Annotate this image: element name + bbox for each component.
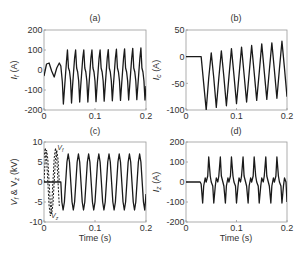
y-tick-label: -200	[24, 105, 42, 115]
y-tick-label: 100	[27, 45, 42, 55]
subplot-c: (c) Time (s) 1050-5-1000.10.2Vf & Vz (kV…	[9, 126, 152, 243]
subplot-title-c: (c)	[90, 126, 101, 136]
subplot-d: (d) Time (s) 2001000-100-20000.10.2Iz (A…	[151, 126, 293, 243]
x-tick-label: 0	[183, 111, 188, 121]
y-axis-label: Vf & Vz (kV)	[9, 158, 20, 205]
y-tick-label: -100	[166, 197, 184, 207]
y-tick-label: 50	[174, 25, 184, 35]
series-line	[186, 41, 287, 110]
y-tick-label: 0	[179, 177, 184, 187]
x-axis-label-d: Time (s)	[220, 233, 253, 243]
y-tick-label: 0	[179, 52, 184, 62]
axes-box	[186, 142, 287, 222]
y-tick-label: 5	[37, 157, 42, 167]
annotation-label: Vz	[51, 212, 59, 221]
y-axis-label: Ic (A)	[151, 60, 162, 80]
y-tick-label: 0	[37, 177, 42, 187]
y-tick-label: 200	[27, 25, 42, 35]
figure: (a) 2001000-100-20000.10.2If (A) (b) 500…	[0, 0, 308, 262]
x-axis-label-c: Time (s)	[79, 233, 112, 243]
y-tick-label: -50	[171, 79, 184, 89]
x-tick-label: 0.2	[281, 223, 294, 233]
x-tick-label: 0.1	[89, 111, 102, 121]
x-tick-label: 0.2	[140, 111, 153, 121]
y-axis-label: Iz (A)	[151, 172, 162, 192]
subplot-a: (a) 2001000-100-20000.10.2If (A)	[9, 13, 152, 121]
x-tick-label: 0	[41, 111, 46, 121]
x-tick-label: 0	[183, 223, 188, 233]
subplot-title-a: (a)	[90, 13, 101, 23]
subplot-b: (b) 500-50-10000.10.2Ic (A)	[151, 13, 293, 121]
y-axis-label: If (A)	[9, 61, 20, 80]
x-tick-label: 0.1	[89, 223, 102, 233]
series-line	[186, 157, 287, 203]
y-tick-label: -100	[24, 85, 42, 95]
x-tick-label: 0.2	[140, 223, 153, 233]
y-tick-label: -5	[34, 197, 42, 207]
y-tick-label: -100	[166, 105, 184, 115]
y-tick-label: 0	[37, 65, 42, 75]
y-tick-label: 10	[32, 137, 42, 147]
y-tick-label: 100	[169, 157, 184, 167]
x-tick-label: 0	[41, 223, 46, 233]
subplot-title-d: (d)	[231, 126, 242, 136]
x-tick-label: 0.2	[281, 111, 294, 121]
y-tick-label: -200	[166, 217, 184, 227]
subplot-title-b: (b)	[231, 13, 242, 23]
x-tick-label: 0.1	[230, 111, 243, 121]
annotation-label: Vf	[57, 144, 64, 153]
y-tick-label: 200	[169, 137, 184, 147]
x-tick-label: 0.1	[230, 223, 243, 233]
series-line	[44, 48, 146, 104]
